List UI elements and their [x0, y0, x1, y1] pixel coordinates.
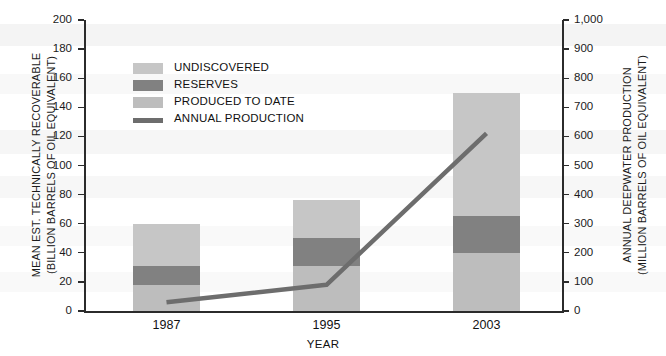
- x-axis-tick-label-1987: 1987: [127, 318, 207, 332]
- annual-production-line: [0, 0, 666, 356]
- chart-figure: MEAN EST. TECHNICALLY RECOVERABLE (BILLI…: [0, 0, 666, 356]
- line-annual-production: [167, 133, 487, 302]
- legend-label: ANNUAL PRODUCTION: [174, 112, 304, 124]
- swatch-produced-to-date-icon: [133, 97, 163, 108]
- x-axis-tick-label-1995: 1995: [287, 318, 367, 332]
- swatch-undiscovered-icon: [133, 63, 163, 74]
- legend-label: UNDISCOVERED: [174, 61, 269, 73]
- legend-label: RESERVES: [174, 78, 238, 90]
- swatch-reserves-icon: [133, 80, 163, 91]
- legend-label: PRODUCED TO DATE: [174, 95, 295, 107]
- swatch-annual-production-icon: [133, 118, 163, 123]
- x-axis-tick-label-2003: 2003: [447, 318, 527, 332]
- x-axis-title: YEAR: [263, 338, 383, 350]
